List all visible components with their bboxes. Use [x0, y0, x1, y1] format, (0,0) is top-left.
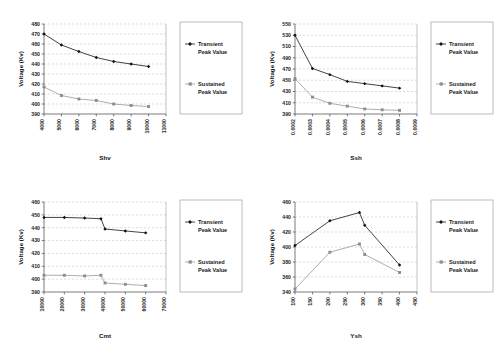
- data-point-transient: [363, 82, 366, 85]
- y-axis-title: Voltage (Kv): [268, 229, 275, 265]
- x-tick-label: 400: [395, 297, 401, 306]
- x-tick-label: 8000: [109, 119, 115, 131]
- x-axis-title: Ysh: [350, 332, 362, 339]
- data-point-sustained: [381, 108, 384, 111]
- data-point-sustained: [104, 282, 107, 285]
- data-point-sustained: [83, 274, 86, 277]
- x-tick-label: 300: [360, 297, 366, 306]
- chart-ssh: 3904104304504704905105305500.00020.00030…: [251, 0, 501, 177]
- chart-cmt: 3904004104204304404504601000020000300004…: [0, 178, 250, 355]
- data-point-transient: [129, 62, 132, 65]
- x-tick-label: 50000: [120, 297, 126, 312]
- data-point-sustained: [63, 274, 66, 277]
- y-tick-label: 550: [282, 21, 291, 27]
- legend-box: [431, 200, 493, 292]
- y-tick-label: 480: [31, 21, 40, 27]
- data-point-transient: [42, 216, 45, 219]
- data-point-sustained: [398, 271, 401, 274]
- legend-marker-sustained: [440, 260, 443, 263]
- data-point-sustained: [328, 251, 331, 254]
- x-tick-label: 70000: [161, 297, 167, 312]
- x-tick-label: 7000: [91, 119, 97, 131]
- legend-label-transient-2: Peak Value: [449, 49, 478, 55]
- x-tick-label: 20000: [59, 297, 65, 312]
- data-point-sustained: [346, 105, 349, 108]
- y-tick-label: 420: [282, 229, 291, 235]
- y-axis-title: Voltage (Kv): [268, 51, 275, 87]
- legend-label-transient-2: Peak Value: [198, 49, 227, 55]
- data-point-sustained: [294, 77, 297, 80]
- x-tick-label: 4000: [39, 119, 45, 131]
- data-point-sustained: [95, 99, 98, 102]
- y-tick-label: 450: [31, 51, 40, 57]
- data-point-sustained: [60, 94, 63, 97]
- y-tick-label: 430: [282, 88, 291, 94]
- x-tick-label: 200: [325, 297, 331, 306]
- legend-label-sustained: Sustained: [198, 81, 225, 87]
- y-tick-label: 440: [31, 61, 40, 67]
- chart-shv: 3904004104204304404504604704804000500060…: [0, 0, 250, 177]
- data-point-transient: [311, 67, 314, 70]
- y-tick-label: 410: [31, 263, 40, 269]
- series-line-transient: [44, 217, 146, 232]
- legend-label-sustained: Sustained: [449, 81, 476, 87]
- y-tick-label: 340: [282, 289, 291, 295]
- y-tick-label: 380: [282, 259, 291, 265]
- y-tick-label: 420: [31, 250, 40, 256]
- data-point-sustained: [43, 86, 46, 89]
- legend-label-sustained-2: Peak Value: [449, 89, 478, 95]
- data-point-sustained: [398, 109, 401, 112]
- data-point-transient: [147, 65, 150, 68]
- y-tick-label: 410: [282, 100, 291, 106]
- y-tick-label: 420: [31, 81, 40, 87]
- y-tick-label: 400: [31, 276, 40, 282]
- x-tick-label: 9000: [126, 119, 132, 131]
- data-point-transient: [77, 50, 80, 53]
- data-point-sustained: [112, 103, 115, 106]
- x-tick-label: 0.0009: [412, 119, 418, 135]
- series-line-transient: [44, 34, 149, 67]
- y-tick-label: 470: [282, 66, 291, 72]
- y-tick-label: 430: [31, 71, 40, 77]
- y-tick-label: 460: [31, 41, 40, 47]
- x-tick-label: 60000: [141, 297, 147, 312]
- data-point-transient: [95, 56, 98, 59]
- legend-label-transient-2: Peak Value: [449, 227, 478, 233]
- data-point-sustained: [99, 274, 102, 277]
- data-point-transient: [398, 86, 401, 89]
- y-tick-label: 460: [282, 199, 291, 205]
- data-point-transient: [112, 60, 115, 63]
- data-point-transient: [99, 217, 102, 220]
- y-tick-label: 400: [31, 101, 40, 107]
- data-point-sustained: [294, 288, 297, 291]
- data-point-sustained: [77, 98, 80, 101]
- legend-marker-sustained: [189, 82, 192, 85]
- x-tick-label: 0.0005: [342, 119, 348, 135]
- chart-grid: 3904004104204304404504604704804000500060…: [0, 0, 501, 355]
- legend-label-transient: Transient: [198, 41, 223, 47]
- x-tick-label: 0.0004: [325, 119, 331, 135]
- legend-marker-sustained: [189, 260, 192, 263]
- data-point-transient: [328, 73, 331, 76]
- y-tick-label: 400: [282, 244, 291, 250]
- data-point-transient: [83, 216, 86, 219]
- chart-panel-ysh: 3403603804004204404601001502002503003504…: [251, 178, 501, 355]
- y-tick-label: 390: [31, 111, 40, 117]
- y-axis-title: Voltage (Kv): [17, 229, 24, 265]
- series-line-sustained: [44, 87, 149, 107]
- y-tick-label: 530: [282, 32, 291, 38]
- y-tick-label: 440: [282, 214, 291, 220]
- x-axis-title: Shv: [99, 154, 111, 161]
- x-tick-label: 350: [377, 297, 383, 306]
- chart-panel-cmt: 3904004104204304404504601000020000300004…: [0, 178, 250, 355]
- y-tick-label: 360: [282, 274, 291, 280]
- x-tick-label: 10000: [144, 119, 150, 134]
- y-tick-label: 430: [31, 237, 40, 243]
- y-tick-label: 410: [31, 91, 40, 97]
- y-tick-label: 450: [282, 77, 291, 83]
- y-tick-label: 390: [282, 111, 291, 117]
- x-tick-label: 100: [290, 297, 296, 306]
- x-axis-title: Cmt: [99, 332, 111, 339]
- x-tick-label: 0.0002: [290, 119, 296, 135]
- legend-label-sustained: Sustained: [198, 259, 225, 265]
